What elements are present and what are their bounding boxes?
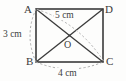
- center-point-marker: [69, 35, 71, 37]
- dimension-label-bottom-side: 4 cm: [57, 68, 78, 78]
- vertex-label-o: O: [64, 39, 71, 50]
- vertex-label-a: A: [24, 4, 32, 15]
- geometry-figure: A D B C O 3 cm 4 cm 5 cm: [0, 0, 126, 81]
- vertex-label-b: B: [26, 56, 33, 67]
- dimension-label-diagonal: 5 cm: [54, 10, 75, 20]
- dimension-label-left-side: 3 cm: [2, 29, 23, 39]
- vertex-label-c: C: [106, 56, 113, 67]
- vertex-label-d: D: [105, 4, 113, 15]
